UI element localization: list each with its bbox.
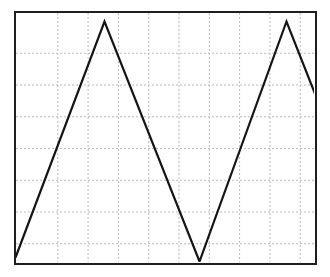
waveform-figure [0,0,330,277]
plot-area [16,13,315,263]
plot-frame [14,11,317,265]
waveform-trace [16,22,314,262]
waveform-trace-layer [16,13,314,262]
